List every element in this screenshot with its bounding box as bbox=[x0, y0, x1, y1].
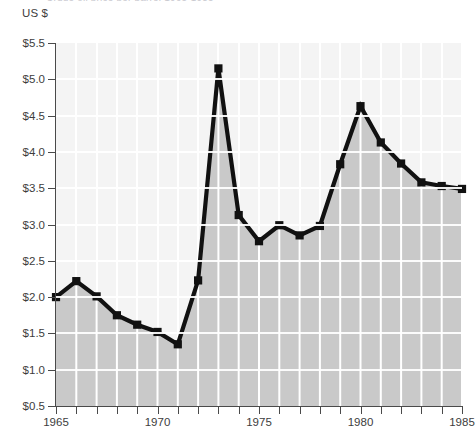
x-tick-1980 bbox=[361, 407, 362, 414]
data-point-1982 bbox=[397, 159, 405, 167]
y-tick-1 bbox=[48, 370, 56, 371]
data-point-1971 bbox=[174, 340, 182, 348]
data-point-1973 bbox=[214, 64, 222, 72]
y-tick-label-1: $1.0 bbox=[23, 364, 45, 376]
x-tick-1967 bbox=[97, 407, 98, 414]
gridline-y-2 bbox=[56, 296, 462, 298]
y-tick-3 bbox=[48, 225, 56, 226]
chart-title-cropped: Crude oil price per barrel 1965-1985 bbox=[46, 0, 214, 1]
gridline-y-5 bbox=[56, 78, 462, 80]
gridline-y-3 bbox=[56, 224, 462, 226]
data-point-1977 bbox=[296, 231, 304, 239]
x-tick-label-1975: 1975 bbox=[246, 416, 272, 428]
data-point-1968 bbox=[113, 311, 121, 319]
y-tick-label-3: $3.0 bbox=[23, 219, 45, 231]
x-tick-1968 bbox=[117, 407, 118, 414]
x-tick-1985 bbox=[462, 407, 463, 414]
gridline-y-4.5 bbox=[56, 115, 462, 117]
x-tick-1973 bbox=[218, 407, 219, 414]
data-point-1966 bbox=[72, 277, 80, 285]
gridline-y-2.5 bbox=[56, 260, 462, 262]
x-tick-1978 bbox=[320, 407, 321, 414]
x-tick-1983 bbox=[421, 407, 422, 414]
y-axis-labels: $5.5$5.0$4.5$4.0$3.5$3.0$2.5$2.0$1.5$1.0… bbox=[0, 0, 45, 436]
y-tick-label-3.5: $3.5 bbox=[23, 182, 45, 194]
data-point-1972 bbox=[194, 276, 202, 284]
y-tick-label-1.5: $1.5 bbox=[23, 327, 45, 339]
x-tick-1976 bbox=[279, 407, 280, 414]
y-tick-3.5 bbox=[48, 188, 56, 189]
y-tick-label-4.5: $4.5 bbox=[23, 110, 45, 122]
y-tick-label-2.5: $2.5 bbox=[23, 255, 45, 267]
data-point-1969 bbox=[133, 321, 141, 329]
y-tick-4.5 bbox=[48, 116, 56, 117]
data-point-1974 bbox=[235, 211, 243, 219]
x-tick-1984 bbox=[442, 407, 443, 414]
gridline-y-4 bbox=[56, 151, 462, 153]
x-tick-1977 bbox=[300, 407, 301, 414]
y-tick-0.5 bbox=[48, 406, 56, 407]
y-tick-2 bbox=[48, 297, 56, 298]
gridline-y-3.5 bbox=[56, 187, 462, 189]
x-tick-1971 bbox=[178, 407, 179, 414]
y-tick-label-5.5: $5.5 bbox=[23, 37, 45, 49]
x-tick-1975 bbox=[259, 407, 260, 414]
gridline-y-1.5 bbox=[56, 332, 462, 334]
data-point-1980 bbox=[356, 102, 364, 110]
x-tick-label-1980: 1980 bbox=[348, 416, 374, 428]
y-tick-label-2: $2.0 bbox=[23, 291, 45, 303]
y-tick-label-5: $5.0 bbox=[23, 73, 45, 85]
x-tick-1970 bbox=[158, 407, 159, 414]
x-tick-1965 bbox=[56, 407, 57, 414]
y-tick-label-0.5: $0.5 bbox=[23, 400, 45, 412]
plot-area bbox=[56, 43, 462, 406]
y-tick-4 bbox=[48, 152, 56, 153]
x-tick-1972 bbox=[198, 407, 199, 414]
x-tick-1969 bbox=[137, 407, 138, 414]
y-tick-1.5 bbox=[48, 333, 56, 334]
gridline-y-1 bbox=[56, 369, 462, 371]
x-tick-1982 bbox=[401, 407, 402, 414]
y-tick-2.5 bbox=[48, 261, 56, 262]
data-point-1983 bbox=[417, 178, 425, 186]
x-tick-label-1970: 1970 bbox=[145, 416, 171, 428]
x-tick-1981 bbox=[381, 407, 382, 414]
x-tick-1966 bbox=[76, 407, 77, 414]
data-point-1981 bbox=[377, 138, 385, 146]
x-tick-1979 bbox=[340, 407, 341, 414]
data-point-1975 bbox=[255, 237, 263, 245]
x-tick-label-1985: 1985 bbox=[449, 416, 475, 428]
y-tick-5.5 bbox=[48, 43, 56, 44]
y-tick-label-4: $4.0 bbox=[23, 146, 45, 158]
x-tick-1974 bbox=[239, 407, 240, 414]
data-point-1979 bbox=[336, 160, 344, 168]
x-tick-label-1965: 1965 bbox=[43, 416, 69, 428]
y-tick-5 bbox=[48, 79, 56, 80]
